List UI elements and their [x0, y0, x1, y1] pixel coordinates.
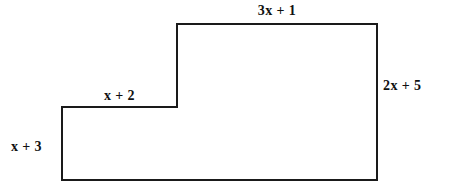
side-label-step-top: x + 2: [62, 89, 177, 103]
side-label-top: 3x + 1: [177, 4, 377, 18]
geometry-figure: 3x + 1 2x + 5 x + 2 x + 3: [0, 0, 453, 191]
side-label-right: 2x + 5: [383, 79, 421, 93]
side-label-left: x + 3: [11, 140, 42, 154]
